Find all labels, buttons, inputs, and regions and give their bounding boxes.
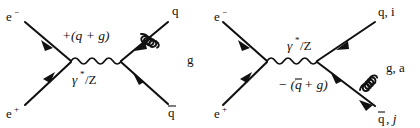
propagator-gamma-label-right: γ — [287, 38, 293, 53]
quark-direction-arrow-right — [336, 41, 349, 50]
antiquark-direction-arrow — [133, 73, 144, 85]
positron-charge-superscript: + — [14, 104, 19, 114]
current-rest-right: + g) — [304, 77, 328, 92]
propagator-gamma-label-left: γ — [72, 72, 78, 87]
current-sign-right: − ( — [278, 77, 296, 92]
photon-z-propagator-wave — [71, 58, 121, 64]
quark-outgoing-line-right — [317, 22, 375, 61]
antiquark-label-right: q — [378, 111, 385, 126]
left-diagram: e − e + +(q + g) γ * /Z q q g — [6, 3, 194, 121]
electron-label: e — [6, 9, 12, 24]
positron-incoming-line-right — [223, 62, 267, 105]
right-diagram: e − e + γ * /Z − ( q + g) q, i q , j g, … — [214, 4, 405, 126]
feynman-diagram-canvas: e − e + +(q + g) γ * /Z q q g — [0, 0, 420, 128]
electron-charge-superscript: − — [14, 7, 19, 17]
quark-label-right: q, i — [378, 4, 395, 19]
electron-incoming-line-right — [223, 22, 267, 61]
antiquark-direction-arrow-right — [330, 71, 342, 84]
gluon-label-left: g — [187, 52, 194, 67]
electron-charge-superscript-right: − — [222, 7, 227, 17]
antiquark-index-right: , j — [386, 111, 397, 126]
propagator-z-label-left: /Z — [85, 72, 97, 87]
electron-label-right: e — [214, 9, 220, 24]
quark-label-left: q — [172, 3, 179, 18]
antiquark-outgoing-line — [121, 62, 168, 104]
positron-label: e — [6, 106, 12, 121]
gluon-label-right: g, a — [386, 60, 405, 75]
positron-label-right: e — [214, 106, 220, 121]
propagator-z-label-right: /Z — [300, 38, 312, 53]
positron-charge-superscript-right: + — [222, 104, 227, 114]
current-label-left: +(q + g) — [62, 28, 110, 43]
positron-incoming-line — [25, 62, 71, 105]
photon-z-propagator-wave-right — [267, 58, 317, 64]
gluon-emission-coil-right — [357, 74, 380, 94]
antiquark-label-left: q — [168, 105, 175, 120]
feynman-diagram-figure: e − e + +(q + g) γ * /Z q q g — [0, 0, 420, 128]
